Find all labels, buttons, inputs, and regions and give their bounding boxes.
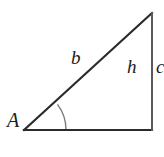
- vertex-angle-label-A: A: [7, 110, 19, 130]
- right-triangle-drawing: [0, 0, 164, 157]
- hypotenuse-label-b: b: [71, 48, 81, 67]
- angle-arc-icon: [58, 104, 67, 130]
- vertical-side-label-h: h: [127, 57, 137, 76]
- outer-side-label-c: c: [156, 57, 164, 76]
- geometry-figure: A b h c: [0, 0, 164, 157]
